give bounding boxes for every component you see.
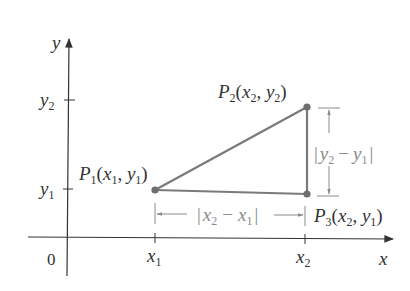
y2-tick-label: y2 bbox=[38, 89, 54, 113]
x-axis bbox=[28, 237, 393, 239]
origin-label: 0 bbox=[47, 250, 56, 269]
x2-tick-label: x2 bbox=[295, 246, 310, 270]
y-axis bbox=[67, 39, 69, 276]
horizontal-leg bbox=[155, 190, 307, 194]
hypotenuse bbox=[155, 107, 307, 190]
point-p1 bbox=[151, 186, 158, 193]
point-p2 bbox=[303, 103, 310, 110]
x-axis-label: x bbox=[378, 248, 388, 269]
distance-formula-diagram: y x 0 y2 y1 x1 x2 P1(x1, y1) P2(x2, y2) … bbox=[0, 0, 410, 291]
y1-tick-label: y1 bbox=[38, 178, 54, 202]
point-p3 bbox=[303, 190, 310, 197]
x1-tick-label: x1 bbox=[146, 245, 161, 269]
p3-label: P3(x2, y1) bbox=[313, 205, 383, 229]
p2-label: P2(x2, y2) bbox=[217, 81, 287, 105]
p1-label: P1(x1, y1) bbox=[78, 163, 148, 187]
horizontal-distance-label: |x2−x1| bbox=[197, 204, 258, 228]
y-axis-label: y bbox=[50, 32, 61, 53]
right-triangle bbox=[155, 107, 307, 194]
vertical-distance-label: |y2−y1| bbox=[314, 143, 373, 167]
